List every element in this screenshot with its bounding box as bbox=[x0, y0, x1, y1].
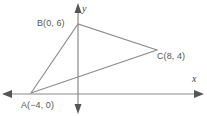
x-axis-left-arrow-icon bbox=[2, 90, 12, 98]
coordinate-plane-figure: B(0, 6) C(8, 4) A(−4, 0) y x bbox=[0, 0, 207, 116]
y-axis-label: y bbox=[82, 4, 86, 14]
x-axis-label: x bbox=[192, 74, 196, 84]
x-axis-right-arrow-icon bbox=[194, 90, 204, 98]
point-label-c: C(8, 4) bbox=[157, 51, 185, 61]
point-label-b: B(0, 6) bbox=[37, 18, 65, 28]
point-label-a: A(−4, 0) bbox=[21, 100, 54, 110]
y-axis-down-arrow-icon bbox=[75, 104, 82, 114]
y-axis-up-arrow-icon bbox=[75, 3, 82, 13]
triangle-abc bbox=[31, 24, 157, 93]
